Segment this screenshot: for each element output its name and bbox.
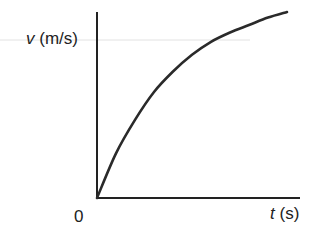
- x-axis-unit: (s): [279, 204, 299, 223]
- y-axis-variable: v: [26, 29, 35, 48]
- y-axis-unit: (m/s): [39, 29, 78, 48]
- y-axis-label: v (m/s): [26, 29, 78, 49]
- x-axis-label: t (s): [270, 204, 299, 224]
- x-axis-variable: t: [270, 204, 275, 223]
- origin-label: 0: [74, 207, 83, 227]
